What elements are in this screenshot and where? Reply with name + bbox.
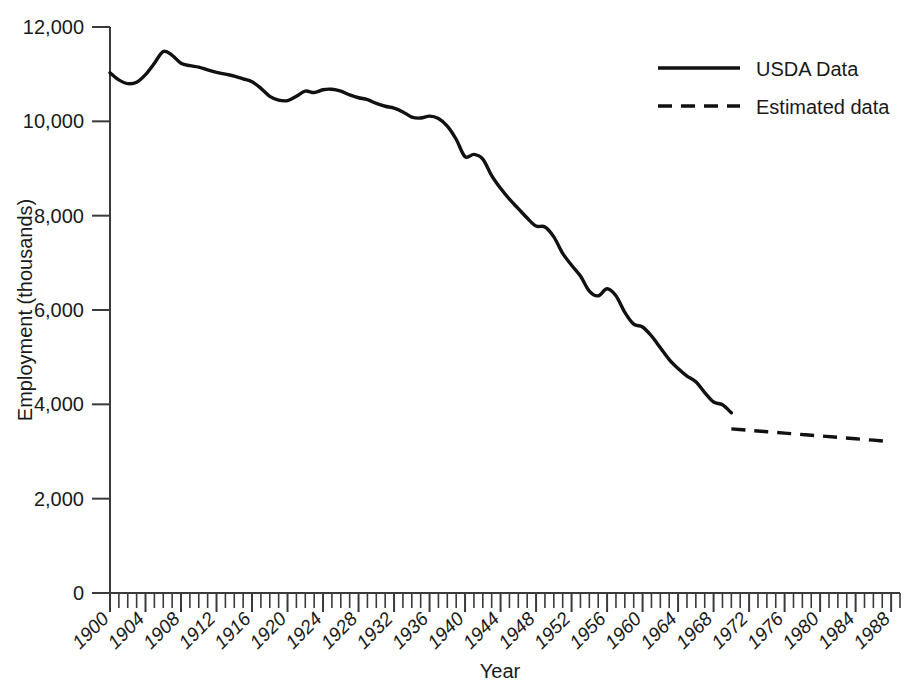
- x-axis-tick-label: 1984: [814, 608, 859, 653]
- x-axis-tick-label: 1972: [707, 608, 752, 653]
- y-axis-ticks: [92, 27, 110, 593]
- series-estimated-data-line: [731, 429, 891, 442]
- x-axis-tick-label: 1940: [423, 608, 468, 653]
- x-axis-tick-label: 1904: [104, 608, 149, 653]
- y-axis-tick-label: 10,000: [23, 110, 84, 132]
- x-axis-tick-label: 1960: [601, 608, 646, 653]
- x-axis-tick-label: 1988: [849, 608, 894, 653]
- y-axis-title: Employment (thousands): [14, 199, 36, 421]
- x-axis-tick-label: 1944: [459, 608, 504, 653]
- x-axis-tick-label: 1908: [139, 608, 184, 653]
- x-axis-title: Year: [480, 660, 521, 682]
- x-axis-tick-label: 1964: [636, 608, 681, 653]
- employment-line-chart: 02,0004,0006,0008,00010,00012,000 190019…: [0, 0, 920, 682]
- x-axis-tick-label: 1948: [494, 608, 539, 653]
- y-axis-tick-label: 2,000: [34, 488, 84, 510]
- x-axis-tick-label: 1980: [778, 608, 823, 653]
- x-axis-minor-ticks: [110, 593, 900, 612]
- y-axis-tick-label: 4,000: [34, 393, 84, 415]
- x-axis-tick-label: 1900: [68, 608, 113, 653]
- x-axis-tick-label: 1912: [175, 608, 220, 653]
- x-axis-tick-label: 1924: [281, 608, 326, 653]
- x-axis-tick-label: 1952: [530, 608, 575, 653]
- y-axis-tick-label: 0: [73, 582, 84, 604]
- x-axis-tick-label: 1916: [210, 608, 255, 653]
- legend: USDA Data Estimated data: [658, 58, 890, 118]
- y-axis-tick-label: 6,000: [34, 299, 84, 321]
- y-axis-tick-label: 12,000: [23, 16, 84, 38]
- series-usda-data-line: [110, 51, 731, 413]
- x-axis-tick-label: 1928: [317, 608, 362, 653]
- chart-canvas: 02,0004,0006,0008,00010,00012,000 190019…: [0, 0, 920, 682]
- x-axis-tick-label: 1936: [388, 608, 433, 653]
- x-axis-tick-label: 1920: [246, 608, 291, 653]
- x-axis-tick-label: 1976: [743, 608, 788, 653]
- legend-label-usda-data: USDA Data: [756, 58, 859, 80]
- x-axis-tick-labels: 1900190419081912191619201924192819321936…: [68, 608, 894, 653]
- x-axis-tick-label: 1956: [565, 608, 610, 653]
- x-axis-tick-label: 1968: [672, 608, 717, 653]
- legend-label-estimated-data: Estimated data: [756, 96, 890, 118]
- y-axis-tick-label: 8,000: [34, 205, 84, 227]
- x-axis-tick-label: 1932: [352, 608, 397, 653]
